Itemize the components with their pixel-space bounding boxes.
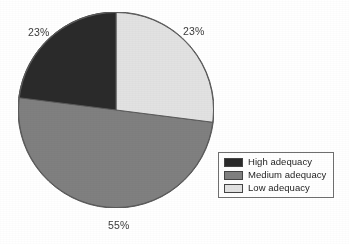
legend-item-medium-adequacy[interactable]: Medium adequacy xyxy=(224,169,329,181)
pie-chart-graphic xyxy=(18,12,214,208)
legend-swatch-high-adequacy xyxy=(224,158,243,167)
slice-label-low-adequacy: 23% xyxy=(183,26,205,37)
legend-label-medium-adequacy: Medium adequacy xyxy=(248,170,326,180)
pie-svg xyxy=(18,12,214,208)
chart-legend: High adequacy Medium adequacy Low adequa… xyxy=(218,152,334,198)
legend-swatch-low-adequacy xyxy=(224,184,243,193)
legend-swatch-medium-adequacy xyxy=(224,171,243,180)
legend-label-low-adequacy: Low adequacy xyxy=(248,183,310,193)
legend-label-high-adequacy: High adequacy xyxy=(248,157,312,167)
legend-item-low-adequacy[interactable]: Low adequacy xyxy=(224,182,329,194)
slice-label-high-adequacy: 23% xyxy=(28,27,50,38)
legend-item-high-adequacy[interactable]: High adequacy xyxy=(224,156,329,168)
pie-chart-figure: 23% 23% 55% High adequacy Medium adequac… xyxy=(0,0,349,244)
slice-label-medium-adequacy: 55% xyxy=(108,220,130,231)
